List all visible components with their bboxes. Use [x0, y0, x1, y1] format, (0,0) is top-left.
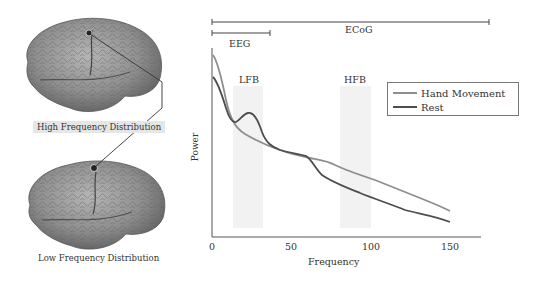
hfb-label: HFB: [344, 74, 366, 85]
legend-swatch-hand-movement: [393, 92, 417, 94]
x-axis-label: Frequency: [308, 256, 359, 267]
brain-top-image: [27, 18, 162, 111]
lfb-band-shading: [233, 86, 263, 228]
eeg-range-bracket: [212, 30, 270, 36]
high-frequency-caption: High Frequency Distribution: [33, 121, 165, 133]
legend-swatch-rest: [393, 106, 417, 109]
x-tick-100: 100: [362, 241, 380, 252]
brain-bottom-image: [29, 161, 165, 249]
eeg-label: EEG: [229, 38, 250, 49]
legend-label: Hand Movement: [421, 88, 505, 99]
y-axis-label: Power: [190, 133, 200, 161]
figure-canvas: [0, 0, 537, 282]
legend-label: Rest: [421, 102, 444, 113]
legend-item-hand-movement: Hand Movement: [393, 87, 518, 99]
low-frequency-caption: Low Frequency Distribution: [38, 253, 159, 263]
legend-item-rest: Rest: [393, 101, 518, 113]
hfb-band-shading: [340, 86, 371, 228]
x-tick-150: 150: [441, 241, 459, 252]
x-tick-50: 50: [285, 241, 297, 252]
lfb-label: LFB: [239, 74, 259, 85]
x-tick-0: 0: [209, 241, 215, 252]
chart-legend: Hand Movement Rest: [387, 82, 519, 116]
ecog-label: ECoG: [345, 24, 373, 35]
